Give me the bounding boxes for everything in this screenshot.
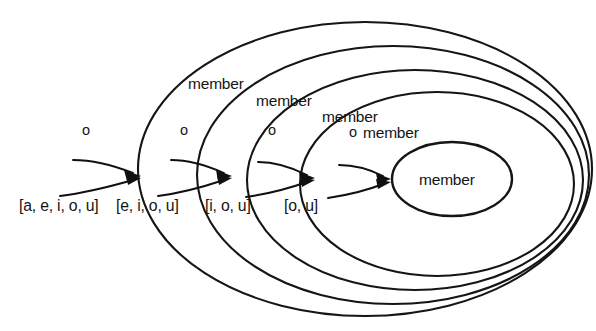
arrow-1-lower-shaft <box>60 180 133 196</box>
arg-label-level-4: o <box>349 124 357 140</box>
nested-ellipses-svg: member member member member member o o o… <box>0 0 596 331</box>
arrow-2-lower-shaft <box>158 180 224 196</box>
diagram-canvas: member member member member member o o o… <box>0 0 596 331</box>
arrow-1-upper-shaft <box>73 160 133 173</box>
arg-label-level-1: o <box>82 122 90 138</box>
member-label-level-4: member <box>363 124 419 141</box>
list-label-level-2: [e, i, o, u] <box>116 197 179 214</box>
member-label-level-2: member <box>256 92 312 109</box>
list-label-level-3: [i, o, u] <box>205 197 251 214</box>
list-label-level-4: [o, u] <box>284 197 318 214</box>
member-label-level-1: member <box>188 75 244 92</box>
arrow-4-lower-head <box>376 179 391 189</box>
member-label-level-3: member <box>322 108 378 125</box>
arg-label-level-2: o <box>180 122 188 138</box>
arrow-4-lower-shaft <box>328 184 383 198</box>
arrow-3-lower-shaft <box>246 182 307 197</box>
arg-label-level-3: o <box>268 122 276 138</box>
list-label-level-1: [a, e, i, o, u] <box>19 197 99 214</box>
member-label-level-5: member <box>419 171 475 188</box>
